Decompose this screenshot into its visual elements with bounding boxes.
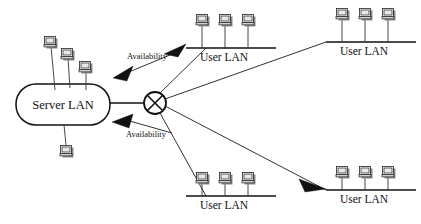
server-pc-stem-4 xyxy=(64,125,66,145)
server-lan-group: Server LAN xyxy=(16,84,110,125)
arrow-to-server-upper-icon xyxy=(113,66,133,81)
arrowheads xyxy=(112,44,326,192)
user-lan-label-3: User LAN xyxy=(200,199,249,211)
computer-icon xyxy=(219,15,233,27)
computer-icon xyxy=(336,167,350,179)
user-lan-segment-4: User LAN xyxy=(326,167,416,206)
computer-icon xyxy=(79,62,93,74)
computer-icon xyxy=(44,37,58,49)
computer-icon xyxy=(219,173,233,185)
user-lan-segment-3: User LAN xyxy=(186,173,276,212)
network-diagram-canvas: Server LAN xyxy=(0,0,421,224)
computer-icon xyxy=(359,167,373,179)
user-lan-label-1: User LAN xyxy=(200,51,249,63)
availability-label-lower: Availability xyxy=(126,129,167,139)
user-lan-segment-2: User LAN xyxy=(326,9,416,58)
arrow-to-user-lan-top-left-icon xyxy=(164,44,186,57)
computer-icon xyxy=(60,146,74,158)
computer-icon xyxy=(382,167,396,179)
computer-icon xyxy=(196,15,210,27)
computer-icon xyxy=(336,9,350,21)
user-lan-label-2: User LAN xyxy=(340,45,389,57)
computer-icon xyxy=(196,173,210,185)
crossed-circle-hub xyxy=(144,92,166,114)
computer-icon xyxy=(382,9,396,21)
arrow-to-user-lan-bottom-right-icon xyxy=(299,179,326,192)
computer-icon xyxy=(242,173,256,185)
server-lan-label: Server LAN xyxy=(32,98,93,112)
computer-icon xyxy=(359,9,373,21)
user-lan-label-4: User LAN xyxy=(340,193,389,205)
computer-icon xyxy=(61,49,75,61)
arrow-to-server-lower-icon xyxy=(112,114,133,128)
computer-icon xyxy=(242,15,256,27)
availability-label-upper: Availability xyxy=(127,51,168,61)
network-diagram: Server LAN xyxy=(0,0,421,224)
user-lan-segment-1: User LAN xyxy=(186,15,276,64)
